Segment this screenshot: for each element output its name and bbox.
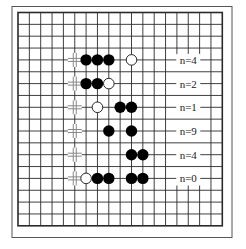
white-stone — [92, 102, 103, 113]
row-label: n=4 — [180, 149, 198, 161]
row-label: n=0 — [180, 172, 198, 184]
black-stone — [126, 102, 137, 113]
black-stone — [137, 173, 148, 184]
go-board-diagram: n=4n=2n=1n=9n=4n=0 — [0, 0, 246, 249]
crosshair-marker-icon — [68, 77, 82, 91]
row-label: n=9 — [180, 125, 198, 137]
black-stone — [92, 173, 103, 184]
row-label: n=4 — [180, 54, 198, 66]
row-label: n=2 — [180, 78, 197, 90]
crosshair-marker-icon — [68, 148, 82, 162]
black-stone — [137, 149, 148, 160]
black-stone — [126, 149, 137, 160]
black-stone — [92, 54, 103, 65]
black-stone — [126, 125, 137, 136]
black-stone — [103, 54, 114, 65]
black-stone — [80, 78, 91, 89]
row-label: n=1 — [180, 101, 197, 113]
crosshair-marker-icon — [68, 124, 82, 138]
outer-frame-line — [12, 7, 232, 238]
crosshair-marker-icon — [68, 100, 82, 114]
black-stone — [92, 78, 103, 89]
black-stone — [114, 102, 125, 113]
black-stone — [103, 173, 114, 184]
black-stone — [80, 54, 91, 65]
board-grid — [18, 13, 222, 226]
crosshair-marker-icon — [68, 171, 82, 185]
outer-frame — [12, 7, 232, 238]
black-stone — [103, 125, 114, 136]
black-stone — [126, 173, 137, 184]
white-stone — [104, 78, 115, 89]
white-stone — [126, 55, 137, 66]
crosshair-marker-icon — [68, 53, 82, 67]
white-stone — [81, 173, 92, 184]
